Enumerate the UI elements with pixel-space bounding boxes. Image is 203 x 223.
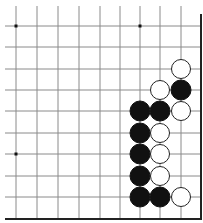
star-point [15, 153, 18, 156]
go-board [0, 0, 203, 223]
black-stone [130, 187, 150, 207]
white-stone [172, 102, 191, 121]
black-stone [150, 187, 170, 207]
black-stone [130, 101, 150, 121]
white-stone [172, 60, 191, 79]
white-stone [151, 145, 170, 164]
black-stone [171, 80, 191, 100]
black-stone [130, 144, 150, 164]
star-point [15, 25, 18, 28]
white-stone [172, 188, 191, 207]
black-stone [130, 166, 150, 186]
black-stone [150, 101, 170, 121]
black-stone [130, 123, 150, 143]
white-stone [151, 81, 170, 100]
white-stone [151, 124, 170, 143]
white-stone [151, 167, 170, 186]
star-point [139, 25, 142, 28]
